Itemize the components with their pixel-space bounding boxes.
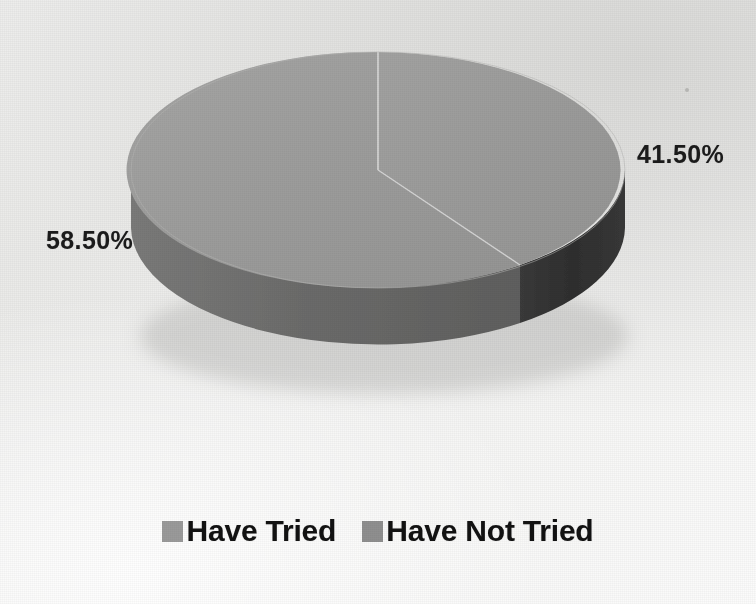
- legend-label-have-not-tried: Have Not Tried: [386, 516, 593, 546]
- legend-label-have-tried: Have Tried: [186, 516, 336, 546]
- data-label-have-not-tried: 41.50%: [637, 140, 724, 169]
- data-label-have-tried: 58.50%: [46, 226, 133, 255]
- legend-swatch-have-tried: [162, 521, 183, 542]
- pie-chart-figure: 41.50% 58.50% Have Tried Have Not Tried: [0, 0, 756, 604]
- legend-item-have-not-tried[interactable]: Have Not Tried: [362, 516, 593, 546]
- chart-legend: Have Tried Have Not Tried: [0, 516, 756, 546]
- scan-dust-speck: [685, 88, 689, 92]
- legend-swatch-have-not-tried: [362, 521, 383, 542]
- legend-item-have-tried[interactable]: Have Tried: [162, 516, 336, 546]
- pie-chart-graphic: [0, 0, 756, 604]
